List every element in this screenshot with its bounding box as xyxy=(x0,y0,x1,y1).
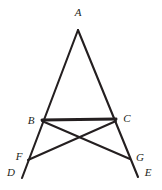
point-label-f: F xyxy=(16,151,23,162)
point-label-a: A xyxy=(75,7,82,18)
point-label-d: D xyxy=(7,167,15,178)
point-label-c: C xyxy=(123,113,130,124)
segment-group xyxy=(22,30,138,178)
point-label-g: G xyxy=(136,152,144,163)
segment-side-AD xyxy=(22,30,78,178)
segment-base-BC xyxy=(42,119,116,120)
geometry-figure: A B C F G D E xyxy=(0,0,162,190)
point-label-b: B xyxy=(28,115,35,126)
point-label-e: E xyxy=(145,167,152,178)
segment-side-AE xyxy=(78,30,138,177)
